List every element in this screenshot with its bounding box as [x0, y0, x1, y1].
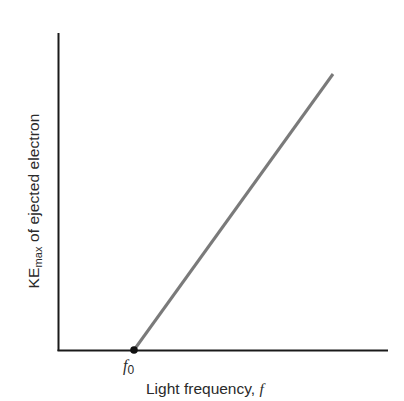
- x-tick-f0: f0: [123, 357, 134, 377]
- x-axis-label: Light frequency, f: [146, 380, 264, 398]
- threshold-point: [130, 346, 138, 354]
- y-axis-label: KEmax of ejected electron: [25, 114, 44, 289]
- photoelectric-chart: [0, 0, 404, 401]
- data-line: [134, 74, 333, 350]
